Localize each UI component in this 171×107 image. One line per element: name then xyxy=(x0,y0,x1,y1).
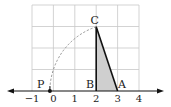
tick-label-4: 4 xyxy=(136,93,142,104)
label-c: C xyxy=(91,14,99,27)
arrow-right-icon xyxy=(157,89,164,94)
arrow-left-icon xyxy=(7,89,14,94)
tick-label-2: 2 xyxy=(93,93,99,104)
label-b: B xyxy=(86,78,94,91)
label-a: A xyxy=(117,78,127,91)
diagram-canvas: P B A C −1 0 1 2 3 4 xyxy=(0,0,171,107)
label-p: P xyxy=(37,78,45,91)
number-line-diagram: P B A C −1 0 1 2 3 4 xyxy=(0,0,171,107)
tick-label-1: 1 xyxy=(72,93,78,104)
tick-label-3: 3 xyxy=(114,93,120,104)
tick-label-neg1: −1 xyxy=(25,93,40,104)
tick-label-0: 0 xyxy=(50,93,56,104)
